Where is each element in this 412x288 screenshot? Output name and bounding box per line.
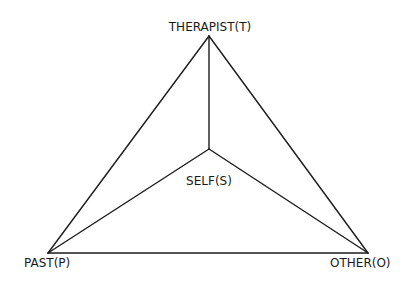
node-label-past: PAST(P)	[24, 256, 70, 270]
node-label-other: OTHER(O)	[330, 256, 391, 270]
edge-therapist-other	[209, 36, 368, 253]
edge-self-past	[48, 149, 209, 253]
triangle-diagram: THERAPIST(T) SELF(S) PAST(P) OTHER(O)	[0, 0, 412, 288]
edge-therapist-past	[48, 36, 209, 253]
node-label-self: SELF(S)	[186, 174, 232, 188]
node-label-therapist: THERAPIST(T)	[168, 20, 251, 34]
edge-self-other	[209, 149, 368, 253]
edges	[48, 36, 368, 253]
